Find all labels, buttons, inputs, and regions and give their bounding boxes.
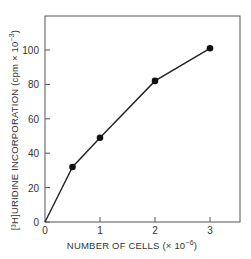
y-tick-label: 60 [28, 114, 40, 125]
y-tick-label: 80 [28, 79, 40, 90]
data-markers [69, 45, 213, 170]
chart: 0 20 40 60 80 100 0 1 2 3 NUMBER OF CELL… [0, 0, 251, 259]
data-point [97, 134, 104, 141]
data-point [152, 78, 159, 85]
x-axis: 0 1 2 3 [42, 217, 213, 236]
x-axis-label: NUMBER OF CELLS (× 10−6) [67, 239, 197, 251]
y-tick-label: 20 [28, 183, 40, 194]
y-tick-label: 40 [28, 148, 40, 159]
x-tick-label: 2 [152, 225, 158, 236]
x-tick-label: 3 [207, 225, 213, 236]
data-point [69, 164, 76, 171]
x-tick-label: 0 [42, 225, 48, 236]
y-axis-label: [³H]URIDINE INCORPORATION (cpm × 10−3) [8, 30, 20, 230]
data-line [45, 48, 210, 222]
y-tick-label: 100 [22, 45, 39, 56]
y-axis: 0 20 40 60 80 100 [22, 45, 50, 228]
y-tick-label: 0 [33, 217, 39, 228]
data-point [207, 45, 214, 52]
x-tick-label: 1 [97, 225, 103, 236]
